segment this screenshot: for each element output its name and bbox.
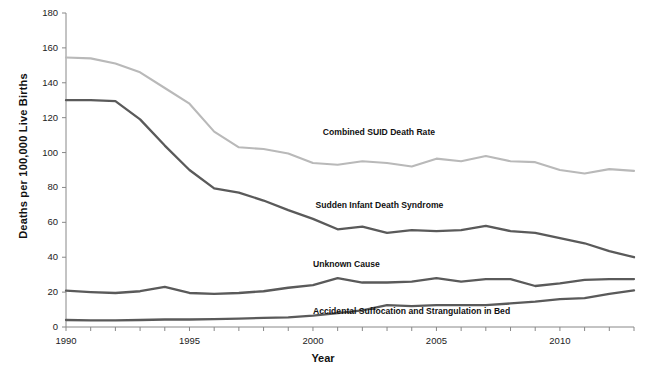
series-label-3: Accidental Suffocation and Strangulation… [313,306,510,316]
y-tick-label: 40 [24,251,58,262]
y-tick-label: 180 [24,7,58,18]
y-tick-label: 80 [24,181,58,192]
x-tick-label: 2010 [540,335,580,346]
series-line-2 [66,278,634,294]
y-tick-label: 120 [24,112,58,123]
y-tick-label: 60 [24,216,58,227]
series-line-1 [66,100,634,257]
series-label-0: Combined SUID Death Rate [323,127,435,137]
x-tick-label: 1995 [169,335,209,346]
x-tick-label: 1990 [46,335,86,346]
y-tick-label: 20 [24,286,58,297]
series-label-2: Unknown Cause [313,259,380,269]
y-tick-label: 160 [24,42,58,53]
suid-death-rate-line-chart: Deaths per 100,000 Live Births Year 0204… [0,0,646,376]
series-line-0 [66,57,634,173]
y-tick-label: 140 [24,77,58,88]
series-label-1: Sudden Infant Death Syndrome [315,200,443,210]
plot-area [0,0,646,376]
x-tick-label: 2005 [416,335,456,346]
x-tick-label: 2000 [293,335,333,346]
y-tick-label: 0 [24,321,58,332]
y-tick-label: 100 [24,147,58,158]
